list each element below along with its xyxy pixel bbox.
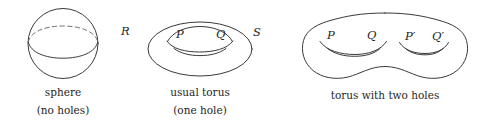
- double-torus-diagram: [302, 13, 467, 78]
- torus-label-R: R: [120, 24, 130, 38]
- sphere-outline: [28, 9, 98, 79]
- double-torus-right-hole-upper-arc: [400, 43, 449, 54]
- double-torus-label-P-prime: P′: [404, 29, 416, 43]
- figure-canvas: sphere (no holes) R P Q S usual torus (o…: [0, 0, 478, 126]
- double-torus-label-Q: Q: [367, 28, 377, 42]
- torus-outer-outline: [148, 22, 252, 76]
- sphere-diagram: [28, 9, 98, 79]
- double-torus-label-P: P: [326, 28, 335, 42]
- sphere-equator-back-arc: [28, 26, 98, 42]
- sphere-caption-line2: (no holes): [37, 104, 90, 116]
- usual-torus-diagram: [148, 22, 252, 76]
- sphere-equator-front-arc: [28, 42, 98, 58]
- double-torus-left-hole-upper-arc: [320, 42, 387, 55]
- double-torus-outline: [302, 13, 467, 78]
- topology-figure: sphere (no holes) R P Q S usual torus (o…: [0, 0, 478, 126]
- torus-label-Q: Q: [216, 27, 226, 41]
- sphere-caption-line1: sphere: [45, 86, 81, 98]
- double-torus-label-Q-prime: Q′: [432, 29, 444, 43]
- double-torus-caption-line1: torus with two holes: [331, 89, 440, 101]
- torus-label-S: S: [253, 25, 261, 39]
- usual-torus-caption-line2: (one hole): [173, 104, 226, 116]
- torus-label-P: P: [175, 27, 184, 41]
- usual-torus-caption-line1: usual torus: [170, 86, 230, 98]
